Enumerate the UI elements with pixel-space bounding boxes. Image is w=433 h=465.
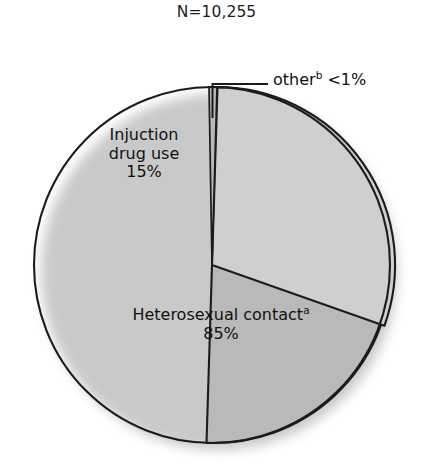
pie-chart-figure: N=10,255 otherb <1% Injuction dr: [0, 0, 433, 465]
slice-label-heterosexual-contact: Heterosexual contacta 85%: [96, 306, 346, 343]
slice-label-other: otherb <1%: [273, 70, 366, 89]
het-footnote-marker: a: [303, 304, 309, 316]
het-label-text: Heterosexual contact: [132, 305, 303, 324]
other-value-text: <1%: [327, 70, 366, 89]
pie-chart-svg: [0, 0, 433, 465]
idu-percent: 15%: [78, 163, 210, 182]
other-footnote-marker: b: [316, 69, 323, 81]
idu-label-line2: drug use: [109, 144, 179, 163]
idu-label-line1: Injuction: [110, 125, 179, 144]
other-label-text: other: [273, 70, 316, 89]
het-percent: 85%: [96, 325, 346, 344]
slice-label-injuction-drug-use: Injuction drug use 15%: [78, 126, 210, 182]
